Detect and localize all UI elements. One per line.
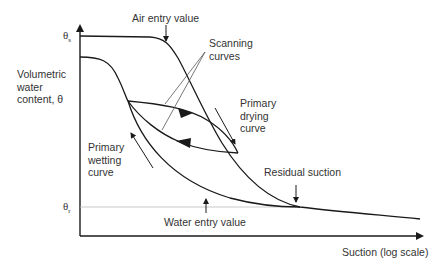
primary-drying-label: Primary drying curve [240,97,276,135]
drying-label-line: curve [240,122,276,135]
wetting-label-line: wetting [88,154,124,167]
scanning-label-line: curves [209,50,253,63]
theta-r-label: θr [63,200,71,215]
wetting-label-line: Primary [88,141,124,154]
drying-label-line: drying [240,110,276,123]
x-axis-label: Suction (log scale) [342,246,428,259]
primary-drying-arrow [215,108,235,144]
theta-s-subscript: s [68,36,71,44]
y-axis-label-line: content, θ [17,93,66,106]
drying-label-line: Primary [240,97,276,110]
wetting-label-line: curve [88,166,124,179]
primary-wetting-label: Primary wetting curve [88,141,124,179]
scanning-label-line: Scanning [209,37,253,50]
scanning-curve-drying [128,101,238,153]
scanning-pointer-1 [165,52,205,104]
scanning-pointer-2 [162,52,205,130]
y-axis-label-line: Volumetric [17,68,66,81]
primary-wetting-arrow [131,133,153,168]
y-axis-label-line: water [17,81,66,94]
scanning-drying-arrowhead [178,108,193,118]
y-axis-label: Volumetric water content, θ [17,68,66,106]
theta-r-subscript: r [68,207,70,215]
scanning-curve-wetting [128,101,238,153]
theta-s-label: θs [63,29,71,44]
scanning-curves-label: Scanning curves [209,37,253,62]
scanning-wetting-arrowhead [176,138,191,148]
air-entry-label: Air entry value [132,12,199,25]
residual-suction-label: Residual suction [264,166,341,179]
water-entry-label: Water entry value [164,216,246,229]
